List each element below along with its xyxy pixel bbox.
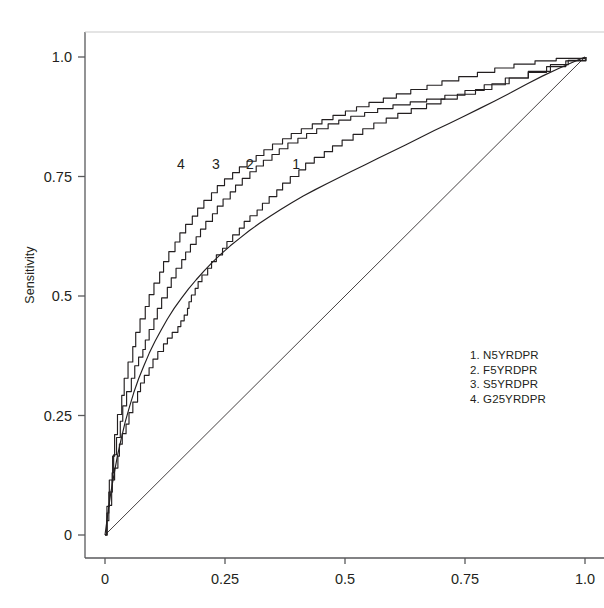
y-tick-label-2: 0.5 [0,288,72,304]
y-tick-label-3: 0.75 [0,169,72,185]
y-tick-label-4: 1.0 [0,49,72,65]
legend-entry-2: 3. S5YRDPR [470,377,546,392]
y-tick-label-0: 0 [0,527,72,543]
x-tick-label-3: 0.75 [451,571,479,587]
curve-tag-F5YRDPR: 2 [246,156,254,172]
curve-tag-G25YRDPR: 4 [177,156,185,172]
x-tick-label-1: 0.25 [211,571,239,587]
roc-curve-figure: Sensitivity 00.250.50.751.0 00.250.50.75… [0,0,604,608]
x-tick-label-4: 1.0 [575,571,595,587]
y-tick-label-1: 0.25 [0,408,72,424]
plot-area [0,0,604,608]
curve-tag-N5YRDPR: 1 [292,156,300,172]
x-tick-label-0: 0 [101,571,109,587]
curve-tag-S5YRDPR: 3 [212,156,220,172]
legend-entry-0: 1. N5YRDPR [470,348,546,363]
legend-entry-1: 2. F5YRDPR [470,363,546,378]
reference-diagonal-line [105,57,585,535]
y-axis-title: Sensitivity [23,215,37,335]
legend-entry-3: 4. G25YRDPR [470,392,546,407]
legend: 1. N5YRDPR2. F5YRDPR3. S5YRDPR4. G25YRDP… [470,348,546,406]
x-tick-label-2: 0.5 [335,571,355,587]
